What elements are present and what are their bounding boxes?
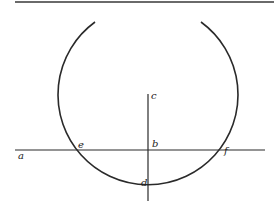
label-b: b <box>152 138 158 149</box>
label-e: e <box>78 139 84 150</box>
geometry-diagram: a e b c d f <box>0 0 274 206</box>
label-a: a <box>18 150 24 161</box>
label-c: c <box>151 90 157 101</box>
label-d: d <box>141 177 147 188</box>
